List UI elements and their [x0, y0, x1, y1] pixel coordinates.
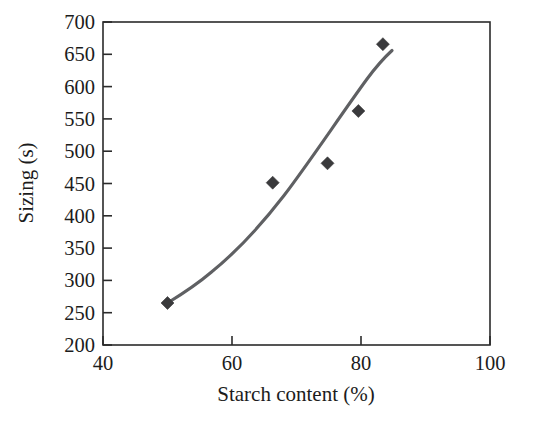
y-tick-label: 200	[64, 334, 95, 356]
sizing-vs-starch-scatter-plot: 200 250 300 350 400 450 500 550 600 650 …	[0, 0, 539, 425]
x-tick-label: 80	[351, 352, 372, 374]
y-axis-tick-labels: 200 250 300 350 400 450 500 550 600 650 …	[64, 11, 95, 356]
plot-area-background	[103, 22, 490, 345]
y-tick-label: 500	[64, 140, 95, 162]
y-tick-label: 350	[64, 237, 95, 259]
y-tick-label: 300	[64, 269, 95, 291]
x-axis-tick-labels: 40 60 80 100	[93, 352, 506, 374]
y-tick-label: 550	[64, 108, 95, 130]
y-tick-label: 450	[64, 173, 95, 195]
y-tick-label: 250	[64, 302, 95, 324]
y-tick-label: 400	[64, 205, 95, 227]
x-tick-label: 40	[93, 352, 114, 374]
y-axis-title: Sizing (s)	[14, 142, 38, 223]
y-tick-label: 700	[64, 11, 95, 33]
x-axis-title: Starch content (%)	[217, 382, 374, 406]
y-tick-label: 600	[64, 76, 95, 98]
x-tick-label: 60	[222, 352, 243, 374]
y-tick-label: 650	[64, 43, 95, 65]
chart-figure: 200 250 300 350 400 450 500 550 600 650 …	[0, 0, 539, 425]
x-tick-label: 100	[475, 352, 506, 374]
